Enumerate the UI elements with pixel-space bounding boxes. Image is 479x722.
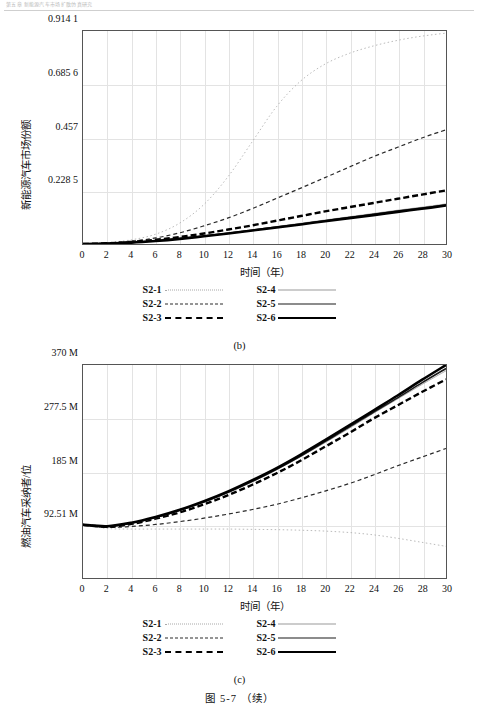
- legend-line-swatch: [165, 620, 223, 628]
- figure-title: 图 5-7 （续）: [0, 690, 479, 705]
- legend-label: S2-4: [257, 618, 276, 629]
- series-s2-2: [83, 130, 446, 244]
- x-tick-label: 18: [296, 249, 306, 260]
- legend-line-swatch: [278, 314, 336, 322]
- legend-item-s2-3: S2-3: [143, 646, 223, 657]
- figure-page: 第五章 新能源汽车市场扩散仿真研究 0.914 10.685 60.4570.2…: [0, 0, 479, 722]
- x-tick-label: 4: [128, 249, 133, 260]
- x-tick-label: 16: [272, 583, 282, 594]
- x-tick-label: 24: [369, 249, 379, 260]
- legend-line-swatch: [165, 314, 223, 322]
- legend-item-s2-2: S2-2: [143, 632, 223, 643]
- header-rule: [4, 10, 474, 11]
- x-tick-label: 6: [153, 249, 158, 260]
- x-tick-label: 10: [199, 583, 209, 594]
- legend-item-s2-1: S2-1: [143, 618, 223, 629]
- y-tick-label: 0.228 5: [48, 174, 78, 185]
- y-axis-title-b: 新能源汽车市场份额: [18, 120, 33, 210]
- legend-item-s2-2: S2-2: [143, 298, 223, 309]
- legend-line-swatch: [165, 634, 223, 642]
- plot-frame-b: [82, 30, 447, 245]
- legend-label: S2-4: [257, 284, 276, 295]
- x-tick-label: 2: [104, 249, 109, 260]
- x-tick-label: 30: [442, 583, 452, 594]
- figure-panel-b: 0.914 10.685 60.4570.228 5 新能源汽车市场份额 024…: [0, 18, 479, 348]
- legend-line-swatch: [278, 286, 336, 294]
- x-tick-label: 20: [320, 249, 330, 260]
- y-axis-ticks-c: 370 M277.5 M185 M92.51 M: [2, 352, 78, 567]
- legend-line-swatch: [278, 620, 336, 628]
- legend-label: S2-2: [143, 632, 162, 643]
- legend-label: S2-1: [143, 618, 162, 629]
- x-tick-label: 4: [128, 583, 133, 594]
- legend-line-swatch: [165, 286, 223, 294]
- y-tick-label: 0.685 6: [48, 66, 78, 77]
- legend-item-s2-4: S2-4: [257, 618, 337, 629]
- x-tick-label: 28: [418, 583, 428, 594]
- plot-frame-c: [82, 364, 447, 579]
- series-s2-4: [83, 371, 446, 527]
- legend-line-swatch: [278, 648, 336, 656]
- legend-item-s2-4: S2-4: [257, 284, 337, 295]
- x-tick-label: 6: [153, 583, 158, 594]
- x-tick-label: 0: [80, 583, 85, 594]
- legend-label: S2-2: [143, 298, 162, 309]
- x-axis-title-c: 时间（年）: [82, 598, 447, 613]
- x-tick-label: 18: [296, 583, 306, 594]
- x-tick-label: 2: [104, 583, 109, 594]
- x-axis-ticks-b: 024681012141618202224262830: [82, 249, 447, 263]
- x-tick-label: 14: [247, 583, 257, 594]
- legend-label: S2-5: [257, 632, 276, 643]
- y-tick-label: 185 M: [52, 454, 78, 465]
- x-tick-label: 22: [345, 583, 355, 594]
- legend-line-swatch: [278, 634, 336, 642]
- x-tick-label: 12: [223, 583, 233, 594]
- legend-label: S2-3: [143, 646, 162, 657]
- y-tick-label: 277.5 M: [44, 400, 78, 411]
- series-s2-6: [83, 365, 446, 526]
- subcaption-c: (c): [0, 674, 479, 685]
- legend-item-s2-5: S2-5: [257, 298, 337, 309]
- legend-label: S2-3: [143, 312, 162, 323]
- legend-item-s2-5: S2-5: [257, 632, 337, 643]
- figure-panel-c: 370 M277.5 M185 M92.51 M 燃油汽车采纳者/位 02468…: [0, 352, 479, 672]
- x-tick-label: 28: [418, 249, 428, 260]
- series-s2-2: [83, 448, 446, 527]
- curve-lines-b: [83, 31, 446, 244]
- legend-c: S2-1S2-4S2-2S2-5S2-3S2-6: [0, 618, 479, 657]
- legend-line-swatch: [165, 300, 223, 308]
- x-tick-label: 0: [80, 249, 85, 260]
- legend-b: S2-1S2-4S2-2S2-5S2-3S2-6: [0, 284, 479, 323]
- plot-area-c: [82, 364, 447, 579]
- legend-label: S2-6: [257, 646, 276, 657]
- x-tick-label: 22: [345, 249, 355, 260]
- legend-item-s2-3: S2-3: [143, 312, 223, 323]
- legend-item-s2-1: S2-1: [143, 284, 223, 295]
- legend-line-swatch: [165, 648, 223, 656]
- y-axis-ticks-b: 0.914 10.685 60.4570.228 5: [2, 18, 78, 233]
- series-s2-1: [83, 525, 446, 547]
- y-tick-label: 92.51 M: [44, 508, 78, 519]
- running-header: 第五章 新能源汽车市场扩散仿真研究: [6, 0, 93, 7]
- series-s2-3: [83, 190, 446, 244]
- x-tick-label: 20: [320, 583, 330, 594]
- y-tick-label: 0.457: [56, 120, 79, 131]
- y-axis-title-c: 燃油汽车采纳者/位: [18, 465, 33, 548]
- x-tick-label: 24: [369, 583, 379, 594]
- x-axis-title-b: 时间（年）: [82, 264, 447, 279]
- x-tick-label: 26: [393, 583, 403, 594]
- legend-label: S2-5: [257, 298, 276, 309]
- legend-label: S2-6: [257, 312, 276, 323]
- curve-lines-c: [83, 365, 446, 578]
- x-tick-label: 26: [393, 249, 403, 260]
- plot-area-b: [82, 30, 447, 245]
- y-tick-label: 0.914 1: [48, 13, 78, 24]
- legend-item-s2-6: S2-6: [257, 312, 337, 323]
- x-tick-label: 12: [223, 249, 233, 260]
- legend-label: S2-1: [143, 284, 162, 295]
- x-tick-label: 30: [442, 249, 452, 260]
- series-s2-5: [83, 368, 446, 526]
- x-tick-label: 10: [199, 249, 209, 260]
- legend-item-s2-6: S2-6: [257, 646, 337, 657]
- x-tick-label: 16: [272, 249, 282, 260]
